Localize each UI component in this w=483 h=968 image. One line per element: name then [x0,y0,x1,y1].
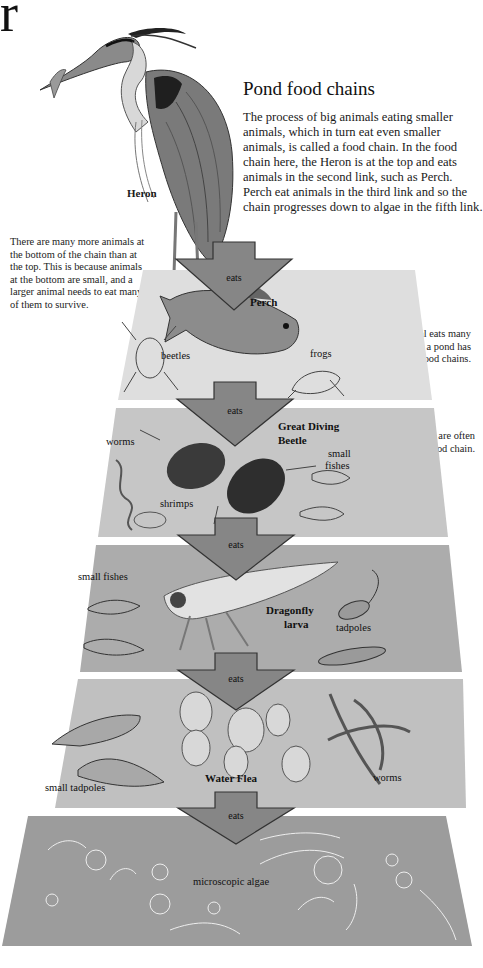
label-dragonfly: Dragonfly [266,604,314,616]
arrow-label-3: eats [186,539,286,550]
label-beetles: beetles [161,350,190,361]
label-worms: worms [106,436,135,447]
label-shrimps: shrimps [160,498,193,509]
label-great-diving: Great Diving [278,420,339,432]
arrow-label-5: eats [186,810,286,821]
label-small-tadpoles: small tadpoles [45,782,105,793]
arrow-label-2: eats [185,405,285,416]
label-worms-2: worms [373,772,402,783]
label-perch: Perch [250,296,277,308]
arrow-label-1: eats [184,272,284,283]
label-microscopic-algae: microscopic algae [193,876,269,887]
label-larva: larva [284,618,308,630]
label-small-fishes: small fishes [78,571,128,582]
label-beetle: Beetle [278,434,307,446]
label-tadpoles: tadpoles [336,622,371,633]
arrow-label-4: eats [186,673,286,684]
label-small: small [328,448,351,459]
label-water-flea: Water Flea [205,772,257,784]
label-fishes: fishes [325,460,350,471]
label-frogs: frogs [310,348,332,359]
